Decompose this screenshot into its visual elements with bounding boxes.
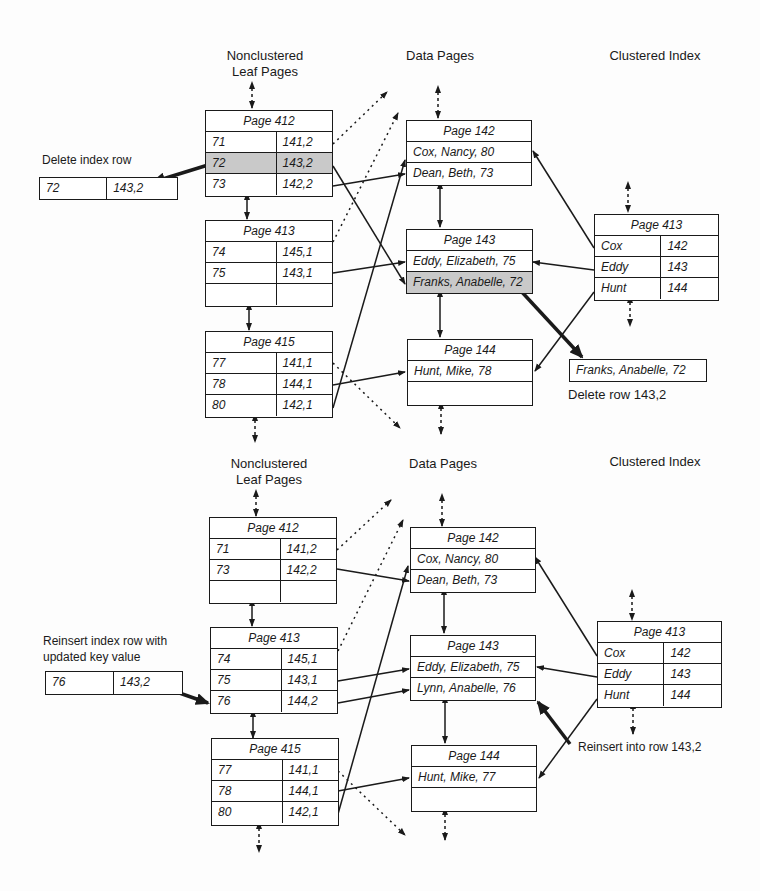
clustered-page-number: 144 (661, 278, 718, 299)
nc-page-415-bottom: Page 415 77141,1 78144,1 80142,1 (211, 738, 339, 826)
data-page-142-bottom: Page 142 Cox, Nancy, 80 Dean, Beth, 73 (410, 527, 536, 593)
nc-page-413-top: Page 413 74145,1 75143,1 (205, 220, 333, 307)
data-row: Dean, Beth, 73 (411, 570, 535, 591)
data-row: Hunt, Mike, 78 (408, 361, 532, 382)
data-row-text: Dean, Beth, 73 (407, 163, 531, 184)
index-row: 80142,1 (206, 395, 332, 416)
removed-data-row-text: Franks, Anabelle, 72 (570, 360, 706, 381)
index-key: 76 (211, 691, 282, 712)
index-row: 73142,2 (206, 174, 332, 195)
index-rid: 141,1 (277, 353, 332, 373)
index-rid: 141,1 (283, 760, 338, 780)
page-title: Page 412 (210, 518, 336, 539)
nc-page-413-bottom: Page 413 74145,1 75143,1 76144,2 (210, 627, 338, 714)
index-row: 73142,2 (210, 560, 336, 581)
index-rid: 141,2 (281, 539, 336, 559)
page-title: Page 413 (595, 215, 718, 236)
data-page-144-top: Page 144 Hunt, Mike, 78 (407, 339, 533, 406)
removed-index-row: 72 143,2 (39, 177, 178, 200)
index-key: 77 (212, 760, 283, 780)
nc-page-412-bottom: Page 412 71141,2 73142,2 (209, 517, 337, 604)
clustered-row: Eddy143 (598, 664, 721, 685)
index-key: 78 (206, 374, 277, 394)
new-index-row: 76 143,2 (45, 671, 183, 695)
index-key: 77 (206, 353, 277, 373)
heading-data-pages-bottom: Data Pages (403, 456, 483, 472)
clustered-row: Cox142 (598, 643, 721, 664)
clustered-row: Cox142 (595, 236, 718, 257)
index-key: 71 (210, 539, 281, 559)
data-row-text: Eddy, Elizabeth, 75 (407, 251, 532, 271)
data-row: Dean, Beth, 73 (407, 163, 531, 184)
page-title: Page 142 (407, 121, 531, 142)
index-rid: 144,2 (282, 691, 337, 712)
annotation-reinsert-row: Reinsert into row 143,2 (578, 739, 748, 755)
data-row-highlighted: Franks, Anabelle, 72 (407, 272, 532, 293)
index-row: 71141,2 (206, 132, 332, 153)
index-row: 77141,1 (212, 760, 338, 781)
heading-nonclustered-bottom: Nonclustered Leaf Pages (214, 456, 324, 488)
data-row-text: Cox, Nancy, 80 (407, 142, 531, 162)
data-row: Cox, Nancy, 80 (411, 549, 535, 570)
index-rid: 142,1 (277, 395, 332, 416)
data-row-empty (412, 788, 536, 809)
index-row-empty (206, 284, 332, 305)
index-key: 80 (212, 802, 283, 823)
clustered-page-413-top: Page 413 Cox142 Eddy143 Hunt144 (594, 214, 719, 301)
index-row: 75143,1 (211, 670, 337, 691)
index-rid (277, 284, 332, 305)
data-row-text (408, 382, 532, 403)
data-row-text: Lynn, Anabelle, 76 (411, 678, 535, 699)
page-title: Page 412 (206, 111, 332, 132)
index-row: 80142,1 (212, 802, 338, 823)
index-rid (281, 581, 336, 602)
nc-page-415-top: Page 415 77141,1 78144,1 80142,1 (205, 331, 333, 418)
index-rid: 142,2 (281, 560, 336, 580)
index-rid: 141,2 (277, 132, 332, 152)
data-row-text: Franks, Anabelle, 72 (407, 272, 532, 293)
page-title: Page 413 (211, 628, 337, 649)
index-rid: 143,2 (277, 153, 332, 173)
connector-layer (0, 0, 760, 891)
heading-clustered-index-top: Clustered Index (595, 48, 715, 64)
index-row: 78144,1 (212, 781, 338, 802)
data-row: Eddy, Elizabeth, 75 (411, 657, 535, 678)
clustered-page-number: 142 (661, 236, 718, 256)
page-title: Page 142 (411, 528, 535, 549)
index-key: 72 (206, 153, 277, 173)
data-page-143-bottom: Page 143 Eddy, Elizabeth, 75 Lynn, Anabe… (410, 635, 536, 701)
clustered-row: Eddy143 (595, 257, 718, 278)
index-row-highlighted: 72143,2 (206, 153, 332, 174)
data-row-text: Hunt, Mike, 77 (412, 767, 536, 787)
page-title: Page 415 (206, 332, 332, 353)
removed-index-key: 72 (40, 178, 107, 199)
index-rid: 144,1 (277, 374, 332, 394)
clustered-key: Hunt (595, 278, 661, 299)
index-row: 77141,1 (206, 353, 332, 374)
clustered-key: Eddy (595, 257, 661, 277)
index-key: 73 (206, 174, 277, 195)
clustered-page-number: 143 (661, 257, 718, 277)
index-key: 80 (206, 395, 277, 416)
new-index-rid: 143,2 (114, 672, 182, 694)
index-key: 71 (206, 132, 277, 152)
page-title: Page 143 (407, 230, 532, 251)
data-row-text: Dean, Beth, 73 (411, 570, 535, 591)
data-page-142-top: Page 142 Cox, Nancy, 80 Dean, Beth, 73 (406, 120, 532, 186)
index-row: 78144,1 (206, 374, 332, 395)
clustered-key: Hunt (598, 685, 664, 706)
page-title: Page 144 (408, 340, 532, 361)
index-key: 75 (211, 670, 282, 690)
index-row: 74145,1 (206, 242, 332, 263)
data-row-text: Cox, Nancy, 80 (411, 549, 535, 569)
index-row-empty (210, 581, 336, 602)
index-rid: 145,1 (277, 242, 332, 262)
heading-data-pages-top: Data Pages (400, 48, 480, 64)
heading-nonclustered-top: Nonclustered Leaf Pages (210, 48, 320, 80)
data-row: Eddy, Elizabeth, 75 (407, 251, 532, 272)
index-rid: 142,1 (283, 802, 338, 823)
removed-index-rid: 143,2 (107, 178, 177, 199)
index-rid: 143,1 (282, 670, 337, 690)
nc-page-412-top: Page 412 71141,2 72143,2 73142,2 (205, 110, 333, 197)
index-row: 76144,2 (211, 691, 337, 712)
